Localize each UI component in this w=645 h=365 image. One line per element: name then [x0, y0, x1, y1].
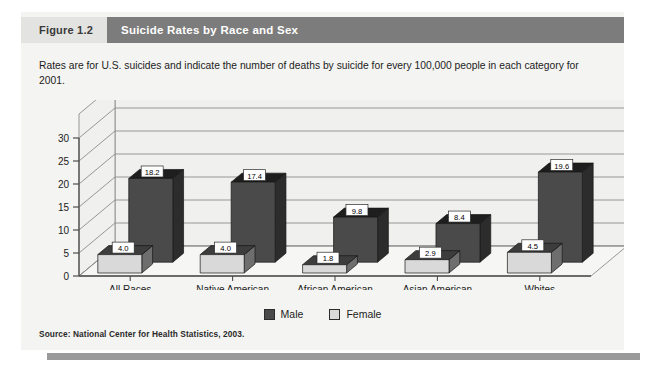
bar-male-1-label: 17.4: [247, 172, 262, 181]
x-axis-category-label: Asian American: [403, 284, 472, 290]
figure-title: Suicide Rates by Race and Sex: [107, 17, 624, 43]
bar-male-2-label: 9.8: [352, 207, 363, 216]
y-axis-tick-label: 5: [63, 248, 69, 259]
chart-plot-area: 05101520253019.68.49.817.418.24.52.91.84…: [21, 100, 624, 290]
legend-swatch-male: [264, 309, 275, 320]
bar-male-0-side-face: [173, 169, 184, 262]
bar-female-2-label: 1.8: [323, 254, 334, 263]
bar-female-4-front-face: [507, 252, 551, 273]
x-axis-category-label: African American: [297, 284, 373, 290]
y-axis-tick-label: 10: [58, 225, 70, 236]
legend-label-female: Female: [346, 308, 381, 320]
bar-male-1-side-face: [275, 173, 286, 262]
chart-legend: Male Female: [21, 308, 624, 320]
y-axis-tick-label: 15: [58, 202, 70, 213]
bar-female-3-label: 2.9: [425, 249, 436, 258]
bar-male-2-side-face: [378, 208, 389, 262]
legend-item-female: Female: [329, 308, 381, 320]
legend-item-male: Male: [264, 308, 304, 320]
figure-card: Figure 1.2 Suicide Rates by Race and Sex…: [21, 12, 624, 350]
bar-chart-svg: 05101520253019.68.49.817.418.24.52.91.84…: [21, 100, 624, 290]
bar-male-3-label: 8.4: [454, 213, 465, 222]
x-axis-category-label: All Races: [109, 284, 151, 290]
y-axis-tick-label: 25: [58, 156, 70, 167]
bar-female-2-front-face: [303, 265, 347, 273]
legend-label-male: Male: [281, 308, 304, 320]
bar-female-0-label: 4.0: [118, 244, 129, 253]
bottom-rule: [47, 353, 640, 360]
bar-male-4-side-face: [582, 163, 593, 262]
x-axis-category-label: Whites: [525, 284, 556, 290]
y-axis-tick-label: 20: [58, 179, 70, 190]
bar-female-3-front-face: [405, 260, 449, 273]
legend-swatch-female: [329, 309, 340, 320]
y-axis-tick-label: 0: [63, 271, 69, 282]
bar-female-1-label: 4.0: [220, 244, 231, 253]
bar-male-0-label: 18.2: [145, 168, 160, 177]
x-axis-category-label: Native American: [196, 284, 269, 290]
bar-male-4-label: 19.6: [554, 162, 569, 171]
source-note: Source: National Center for Health Stati…: [39, 329, 244, 339]
bar-female-1-front-face: [200, 255, 244, 273]
bar-female-0-front-face: [98, 255, 142, 273]
figure-number: Figure 1.2: [21, 17, 107, 43]
bar-female-4-label: 4.5: [528, 242, 539, 251]
figure-subtitle: Rates are for U.S. suicides and indicate…: [39, 58, 584, 88]
figure-header: Figure 1.2 Suicide Rates by Race and Sex: [21, 17, 624, 43]
y-axis-tick-label: 30: [58, 133, 70, 144]
